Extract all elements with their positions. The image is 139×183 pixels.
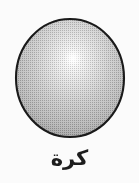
sphere-svg <box>0 0 139 146</box>
sphere-illustration <box>0 0 139 146</box>
sphere-highlight <box>64 49 82 67</box>
figure-caption: كرة <box>51 143 89 173</box>
caption-row: كرة <box>0 143 139 183</box>
figure-root: كرة <box>0 0 139 183</box>
